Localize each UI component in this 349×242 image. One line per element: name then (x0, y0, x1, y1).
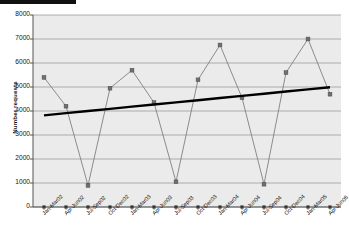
chart-container: Number requests 800070006000500040003000… (0, 0, 346, 242)
